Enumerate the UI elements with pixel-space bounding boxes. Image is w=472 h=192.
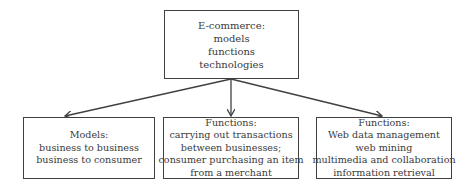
node-line: technologies [199, 58, 263, 71]
arrow-to-functions-web [231, 79, 382, 116]
node-line: from a merchant [190, 167, 272, 180]
models-node: Models: business to business business to… [23, 117, 155, 179]
node-line: between businesses; [181, 142, 281, 155]
arrow-to-models [65, 79, 231, 116]
functions-web-node: Functions: Web data management web minin… [316, 117, 452, 179]
functions-transactions-node: Functions: carrying out transactions bet… [163, 117, 299, 179]
node-line: carrying out transactions [169, 129, 292, 142]
node-line: consumer purchasing an item [158, 154, 303, 167]
node-line: models [213, 32, 249, 45]
node-line: information retrieval [333, 167, 435, 180]
node-line: Web data management [328, 129, 440, 142]
node-title: E-commerce: [198, 19, 265, 32]
node-line: functions [208, 45, 255, 58]
node-line: business to consumer [36, 154, 142, 167]
node-line: business to business [39, 142, 139, 155]
node-title: Functions: [358, 117, 409, 130]
node-title: Models: [70, 129, 109, 142]
node-title: Functions: [205, 117, 256, 130]
node-line: web mining [356, 142, 413, 155]
ecommerce-root-node: E-commerce: models functions technologie… [164, 10, 299, 79]
node-line: multimedia and collaboration [312, 154, 455, 167]
